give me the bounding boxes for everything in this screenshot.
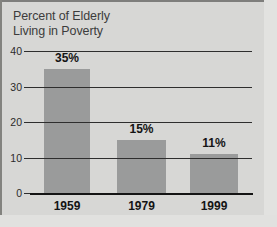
y-tick-label-30: 30 (10, 81, 22, 93)
y-tick-label-0: 0 (16, 187, 22, 199)
x-tick-label-1999: 1999 (201, 199, 228, 213)
bars-layer: 35%15%11% (30, 51, 252, 193)
y-tick-label-20: 20 (10, 116, 22, 128)
figure-border-left (0, 0, 2, 227)
y-tick-label-40: 40 (10, 45, 22, 57)
y-tick-mark-40 (24, 51, 30, 52)
bar-value-label-1999: 11% (202, 136, 225, 150)
y-tick-mark-10 (24, 158, 30, 159)
y-tick-mark-0 (24, 193, 30, 194)
x-axis-line (30, 193, 253, 195)
y-tick-mark-20 (24, 122, 30, 123)
chart-figure: Percent of Elderly Living in Poverty 35%… (0, 0, 277, 227)
bar-1979 (117, 140, 166, 193)
figure-border-top (0, 0, 277, 2)
chart-title: Percent of Elderly Living in Poverty (13, 9, 203, 38)
y-tick-mark-30 (24, 87, 30, 88)
bar-1959 (44, 69, 90, 193)
bar-1999 (190, 154, 238, 193)
plot-area: 35%15%11% 195919791999010203040 (30, 51, 252, 193)
bar-value-label-1979: 15% (129, 122, 153, 136)
x-tick-label-1979: 1979 (128, 199, 155, 213)
bar-value-label-1959: 35% (55, 51, 79, 65)
figure-margin-bottom (0, 215, 277, 227)
x-tick-label-1959: 1959 (54, 199, 81, 213)
y-tick-label-10: 10 (10, 152, 22, 164)
figure-margin-right (264, 0, 277, 227)
